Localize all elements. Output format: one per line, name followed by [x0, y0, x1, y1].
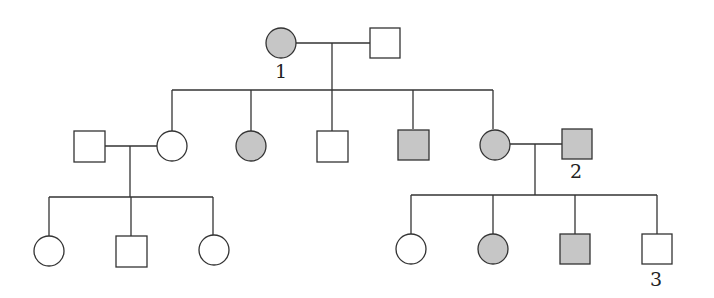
- affected-female-child5: [480, 130, 510, 160]
- unaffected-female-child1: [157, 131, 187, 161]
- label-3: 3: [650, 268, 662, 290]
- affected-female-1: [266, 28, 296, 58]
- unaffected-female-g3l3: [199, 235, 229, 265]
- affected-female-g3r2: [478, 234, 508, 264]
- generation-1: 1: [266, 28, 400, 90]
- unaffected-male-child3: [317, 131, 348, 162]
- unaffected-male-3: [642, 234, 672, 264]
- unaffected-female-g3l1: [34, 236, 64, 266]
- generation-3-right: 3: [396, 195, 672, 290]
- generation-3-left: [34, 197, 229, 267]
- unaffected-male-spouse-left: [74, 131, 105, 162]
- affected-male-2: [562, 129, 592, 159]
- label-1: 1: [275, 60, 287, 82]
- label-2: 2: [570, 160, 582, 182]
- affected-male-child4: [398, 130, 429, 160]
- unaffected-male-g3l2: [116, 236, 147, 267]
- unaffected-female-g3r1: [396, 234, 426, 264]
- affected-male-g3r3: [560, 234, 590, 264]
- pedigree-diagram: 1 2: [0, 0, 714, 298]
- affected-female-child2: [236, 131, 266, 161]
- unaffected-male-gen1: [370, 28, 400, 58]
- generation-2: 2: [74, 129, 592, 197]
